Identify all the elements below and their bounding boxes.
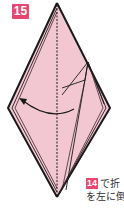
- caption-line-2: を左に倒: [86, 190, 124, 203]
- ref-step-badge: 14: [86, 178, 98, 189]
- instruction-caption: 14で折 を左に倒: [86, 177, 124, 203]
- caption-line-1: 14で折: [86, 177, 124, 190]
